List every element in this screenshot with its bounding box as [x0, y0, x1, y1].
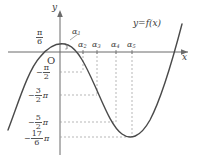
marker-subscript: 2: [83, 43, 86, 49]
marker-subscript: 3: [97, 43, 100, 49]
y-tick-fraction: 32: [35, 87, 42, 104]
y-tick-pi-over-6: π6: [36, 29, 44, 46]
y-axis-label: y: [52, 3, 57, 12]
y-axis: [57, 10, 63, 155]
y-tick-fraction: π2: [43, 64, 50, 81]
marker-alpha1: α1: [72, 28, 81, 36]
marker-alpha5: α5: [127, 41, 136, 49]
marker-subscript: 1: [77, 30, 80, 36]
y-tick-sign: −: [36, 69, 43, 77]
y-tick-neg-17-over-6-pi: −176π: [24, 130, 49, 147]
y-tick-neg-pi-over-2: −π2: [36, 64, 51, 81]
y-tick-sign: −: [24, 135, 31, 143]
y-tick-fraction: 176: [31, 130, 43, 147]
y-tick-fraction: π6: [36, 29, 43, 46]
y-tick-sign: −: [28, 119, 35, 127]
alpha1-pointer: [67, 34, 78, 49]
marker-subscript: 4: [116, 43, 119, 49]
y-tick-neg-3-over-2-pi: −32π: [28, 87, 48, 104]
marker-alpha3: α3: [92, 41, 101, 49]
y-tick-trail: π: [43, 135, 49, 143]
marker-alpha2: α2: [78, 41, 87, 49]
function-graph-figure: y x O y=f(x) π6 −π2 −32π −52π −176π α1 α…: [0, 0, 199, 161]
y-tick-trail: π: [42, 92, 48, 100]
x-axis-label: x: [182, 53, 187, 62]
marker-subscript: 5: [132, 43, 135, 49]
x-axis: [8, 49, 188, 55]
marker-alpha4: α4: [111, 41, 120, 49]
y-tick-trail: π: [42, 119, 48, 127]
y-tick-sign: −: [28, 92, 35, 100]
dashed-guides: [60, 44, 132, 137]
curve-equation-label: y=f(x): [133, 19, 161, 28]
